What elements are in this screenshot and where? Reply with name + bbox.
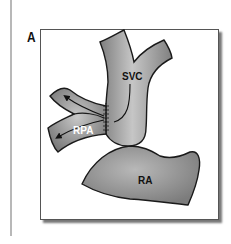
svc-label: SVC: [122, 71, 143, 82]
svc-shape: [100, 30, 172, 146]
ra-label: RA: [138, 175, 152, 186]
heart-vessel-diagram: SVC RPA RA: [0, 0, 231, 244]
rpa-label: RPA: [73, 125, 93, 136]
rpa-shape: [48, 88, 106, 152]
